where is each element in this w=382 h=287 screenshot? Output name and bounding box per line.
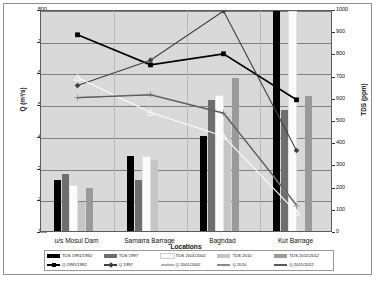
legend-item[interactable]: +Q 2010	[217, 262, 274, 267]
legend-swatch	[104, 254, 117, 258]
legend-item[interactable]: TDS 1997	[104, 254, 161, 258]
legend-marker-diamond	[108, 262, 114, 268]
y-tick-label-right: 200	[336, 185, 362, 190]
legend-line-swatch	[274, 262, 287, 267]
legend-label: TDS 1997	[119, 254, 138, 258]
data-point-marker	[294, 97, 299, 102]
line-series	[78, 35, 297, 100]
legend-label: Q 1991/1992	[62, 263, 87, 267]
x-axis-title: Locations	[40, 243, 332, 250]
y-tick-label-right: 300	[336, 162, 362, 167]
y-tick-label-right: 800	[336, 51, 362, 56]
y-tick-label-right: 600	[336, 96, 362, 101]
data-point-marker	[74, 74, 80, 80]
y-tick-mark-right	[332, 121, 335, 122]
y-tick-mark-right	[332, 32, 335, 33]
legend-label: TDS 2011/2012	[289, 254, 319, 258]
y-tick-label-right: 0	[336, 229, 362, 234]
data-point-marker	[75, 83, 81, 89]
plot-area	[40, 10, 332, 232]
legend-label: Q 2001/2002	[176, 263, 201, 267]
legend-swatch	[161, 254, 174, 258]
legend-label: Q 1997	[119, 263, 133, 267]
legend-marker-square	[52, 263, 56, 267]
y-tick-mark-right	[332, 165, 335, 166]
y-tick-label-right: 1000	[336, 7, 362, 12]
legend-line-swatch	[161, 262, 174, 267]
legend-label: TDS 1991/1992	[62, 254, 92, 258]
y-tick-label-right: 900	[336, 29, 362, 34]
y-tick-label-right: 100	[336, 207, 362, 212]
data-point-marker	[75, 32, 80, 37]
legend-line-swatch	[47, 262, 60, 267]
y-tick-mark-right	[332, 232, 335, 233]
line-series	[78, 94, 297, 206]
y-tick-mark-right	[332, 188, 335, 189]
legend-swatch	[47, 254, 60, 258]
legend-item[interactable]: Q 1991/1992	[47, 262, 104, 267]
y-tick-mark-right	[332, 54, 335, 55]
y-axis-left-title: Q (m³/s)	[19, 70, 26, 130]
y-tick-mark-right	[332, 143, 335, 144]
data-point-marker	[148, 57, 154, 63]
legend-label: TDS 2010	[232, 254, 251, 258]
line-series	[78, 78, 297, 213]
y-tick-label-right: 700	[336, 74, 362, 79]
lines-layer	[41, 11, 332, 232]
legend-item[interactable]: Q 2011/2012	[274, 262, 331, 267]
legend-item[interactable]: Q 1997	[104, 262, 161, 267]
chart-legend: TDS 1991/1992TDS 1997TDS 2001/2002TDS 20…	[44, 250, 334, 271]
legend-marker-triangle	[166, 263, 170, 266]
data-point-marker	[221, 51, 226, 56]
y-tick-mark-left	[37, 232, 40, 233]
legend-label: Q 2010	[232, 263, 246, 267]
line-series	[78, 95, 297, 205]
chart-figure: Q (m³/s) TDS (ppm) 100200300400500600700…	[0, 0, 382, 287]
data-point-marker	[148, 91, 154, 97]
legend-line-swatch	[104, 262, 117, 267]
y-tick-mark-right	[332, 77, 335, 78]
legend-row-lines: Q 1991/1992Q 1997Q 2001/2002+Q 2010Q 201…	[47, 261, 331, 270]
y-tick-mark-right	[332, 210, 335, 211]
legend-label: Q 2011/2012	[289, 263, 314, 267]
legend-item[interactable]: TDS 1991/1992	[47, 254, 104, 258]
legend-item[interactable]: TDS 2011/2012	[274, 254, 331, 258]
y-tick-mark-right	[332, 10, 335, 11]
legend-label: TDS 2001/2002	[176, 254, 206, 258]
data-point-marker	[294, 148, 300, 154]
legend-marker-plus: +	[222, 263, 226, 267]
legend-item[interactable]: TDS 2001/2002	[161, 254, 218, 258]
y-tick-mark-right	[332, 99, 335, 100]
legend-line	[274, 264, 287, 265]
y-tick-label-right: 500	[336, 118, 362, 123]
legend-line-swatch: +	[217, 262, 230, 267]
legend-swatch	[217, 254, 230, 258]
line-series	[78, 11, 297, 151]
legend-item[interactable]: Q 2001/2002	[161, 262, 218, 267]
legend-swatch	[274, 254, 287, 258]
y-tick-label-right: 400	[336, 140, 362, 145]
data-point-marker	[148, 63, 153, 68]
legend-item[interactable]: TDS 2010	[217, 254, 274, 258]
legend-row-bars: TDS 1991/1992TDS 1997TDS 2001/2002TDS 20…	[47, 252, 331, 261]
